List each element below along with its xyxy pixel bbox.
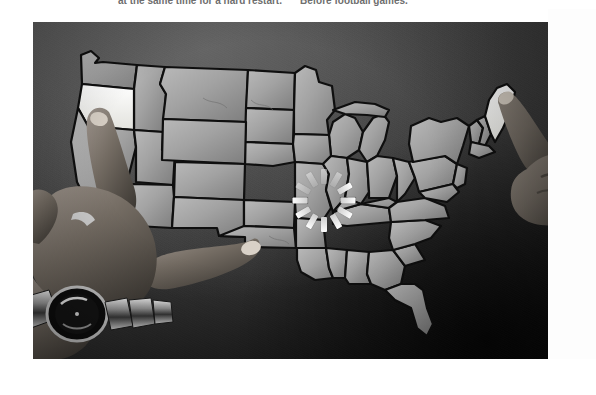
board-vignette [33, 22, 548, 359]
dark-presentation-board [33, 22, 548, 359]
screenshot-root: at the same time for a hard restart. Bef… [0, 0, 596, 395]
page-bottom-margin [0, 359, 596, 395]
caption-strip: at the same time for a hard restart. Bef… [0, 0, 596, 9]
photo-right-margin [548, 9, 596, 395]
photo-left-margin [0, 9, 33, 395]
caption-right-text: Before football games. [300, 0, 408, 6]
caption-left-text: at the same time for a hard restart. [118, 0, 282, 6]
photograph [0, 9, 596, 395]
